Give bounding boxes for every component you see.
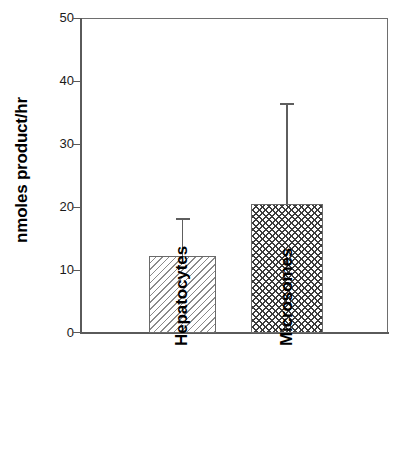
y-axis-line — [80, 18, 82, 334]
x-category-label-microsomes-text: Microsomes — [277, 248, 297, 346]
y-tick-mark-10 — [73, 270, 81, 271]
y-tick-mark-40 — [73, 81, 81, 82]
error-bar-cap-hepatocytes — [176, 218, 190, 220]
plot-area-frame — [80, 18, 388, 333]
x-axis-line — [80, 332, 389, 334]
y-axis-title: nmoles product/hr — [0, 0, 44, 340]
error-bar-cap-microsomes — [280, 103, 294, 105]
y-tick-mark-50 — [73, 18, 81, 19]
bar-chart-figure: nmoles product/hr 50 40 30 20 10 0 Hepat… — [0, 0, 401, 470]
y-tick-label-20: 20 — [46, 200, 74, 213]
error-bar-stem-microsomes — [286, 103, 288, 204]
y-tick-label-40: 40 — [46, 74, 74, 87]
x-category-label-hepatocytes-text: Hepatocytes — [172, 246, 192, 346]
y-tick-label-50: 50 — [46, 11, 74, 24]
y-tick-mark-30 — [73, 144, 81, 145]
y-tick-label-10: 10 — [46, 263, 74, 276]
y-tick-label-0: 0 — [46, 326, 74, 339]
y-axis-tick-labels: 50 40 30 20 10 0 — [44, 0, 74, 470]
y-tick-mark-20 — [73, 207, 81, 208]
y-axis-title-text: nmoles product/hr — [12, 97, 32, 243]
y-tick-label-30: 30 — [46, 137, 74, 150]
y-tick-mark-0 — [73, 332, 81, 333]
